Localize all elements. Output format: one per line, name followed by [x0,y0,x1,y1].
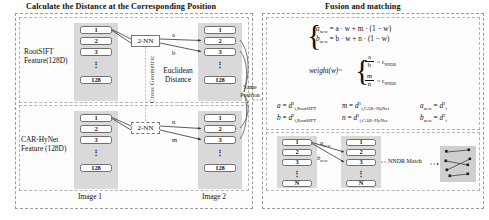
r1-img1-cell-128: 128 [80,76,112,84]
weight-frac1-rel-sub: NNDR [384,62,396,67]
same-position-label: Same Position [237,84,263,99]
definition-anew-lhs-sub: new [424,106,432,111]
definition-n: n = d1i,CAR−HyNet [342,113,387,122]
r2-img1-cell-1: 1 [80,114,112,122]
match-c1-cell-3: 3 [282,159,312,166]
match-c2-cell-N: N [346,180,376,187]
r2-img1-cell-3: 3 [80,136,112,144]
r2-img2-cell-128: 128 [204,164,236,172]
r2-img1-cell-2: 2 [80,125,112,133]
system1-line1: anew = a · w + m · (1 − w) [316,24,391,33]
arrow-label-a: a [172,31,175,39]
definition-bnew-sup: 2 [443,113,445,118]
cross-geometric-label: Cross Geometric [148,55,155,103]
system1-line2-rhs: = b · w + n · (1 − w) [329,34,389,43]
r1-img2-cell-3: 3 [204,48,236,56]
r1-img1-cell-1: 1 [80,26,112,34]
r1-img2-dots: ⋮ [204,61,236,69]
r1-img1-cell-2: 2 [80,37,112,45]
match-bnew-sub: new [320,158,327,163]
definition-anew-sup: 1 [443,101,445,106]
r1-img2-cell-1: 1 [204,26,236,34]
definition-m-lhs: m [342,101,347,110]
match-c1-dots: ⋮ [282,170,312,178]
r1-img2-cell-2: 2 [204,37,236,45]
r2-img2-cell-3: 3 [204,136,236,144]
definition-a-sub: i,RootSIFT [295,106,317,111]
match-c1-cell-2: 2 [282,149,312,156]
weight-label: weight(w)~ [309,66,342,75]
r2-img2-cell-1: 1 [204,114,236,122]
rootsift-label-line2: Feature(128D) [24,56,68,65]
definition-a: a = d1i,RootSIFT [277,101,316,110]
definition-anew-sub: i [446,106,447,111]
weight-frac2-relation: ~ rNNDR [377,77,396,84]
match-arrow-label-bnew: bnew [317,154,328,161]
definition-a-sup: 1 [292,101,294,106]
definition-b: b = d2i,RootSIFT [277,113,316,122]
diagram-root: Calculate the Distance at the Correspond… [0,0,489,220]
system1-line2: bnew = b · w + n · (1 − w) [316,34,389,43]
definition-bnew-eq: = [433,113,437,122]
definition-m-sub: i,CAR−HyNet [361,106,389,111]
left-panel-title: Calculate the Distance at the Correspond… [26,2,216,11]
definition-anew: anew = d1i [420,101,447,110]
definition-n-sub: i,CAR−HyNet [360,118,388,123]
two-nn-box-carhynet: 2-NN [131,122,160,134]
same-position-line1: Same [243,84,256,90]
nndr-match-label: NNDR Match [388,158,422,166]
carhynet-label-line2: Feature (128D) [21,144,66,153]
definition-anew-eq: = [433,101,437,110]
definition-a-lhs: a [277,101,281,110]
arrow-label-b: b [172,49,175,57]
definition-m-sup: 1 [359,101,361,106]
definition-b-lhs: b [277,113,281,122]
definition-b-eq: = [282,113,286,122]
match-c2-cell-3: 3 [346,159,376,166]
r2-img1-dots: ⋮ [80,149,112,157]
arrow-label-n: n [172,118,175,126]
carhynet-label-line1: CAR-HyNet [21,135,58,144]
match-c2-cell-1: 1 [346,139,376,146]
weight-frac2-rel-sub: NNDR [384,81,396,86]
weight-frac1-den: b [368,61,371,68]
weight-frac2-den: n [368,80,371,87]
system1-line2-lhs-sub: new [320,39,328,44]
definition-n-sup: 1 [357,113,359,118]
match-c1-cell-1: 1 [282,139,312,146]
match-c1-cell-N: N [282,180,312,187]
r1-img1-dots: ⋮ [80,61,112,69]
rootsift-feature-label: RootSIFT Feature(128D) [24,47,68,66]
image2-caption: Image 2 [202,192,226,201]
definition-n-eq: = [347,113,351,122]
system1-line1-rhs: = a · w + m · (1 − w) [329,24,391,33]
r1-img2-cell-128: 128 [204,76,236,84]
definition-b-sub: i,RootSIFT [295,118,317,123]
definition-bnew: bnew = d2i [420,113,447,122]
weight-frac2-num: m [367,72,372,79]
r1-img1-cell-3: 3 [80,48,112,56]
definition-a-eq: = [282,101,286,110]
match-c2-dots: ⋮ [346,170,376,178]
match-anew-sub: new [323,143,330,148]
r2-img2-cell-2: 2 [204,125,236,133]
weight-fraction-1: a b [365,54,374,69]
same-position-line2: Position [240,92,260,98]
rootsift-label-line1: RootSIFT [24,47,54,56]
weight-frac1-num: a [368,53,371,60]
definition-bnew-lhs-sub: new [424,118,432,123]
match-arrow-label-anew: anew [320,139,331,146]
euclidean-line2: Distance [165,75,191,84]
definition-b-sup: 2 [292,113,294,118]
definition-m-eq: = [349,101,353,110]
euclidean-line1: Euclidean [163,66,193,75]
weight-fraction-2: m n [365,73,374,88]
nndr-match-result-box [440,146,476,182]
arrow-label-m: m [172,136,177,144]
definition-bnew-sub: i [446,118,447,123]
right-panel-title: Fusion and matching [325,2,401,11]
definition-m: m = d1i,CAR−HyNet [342,101,389,110]
r2-img2-dots: ⋮ [204,149,236,157]
match-c2-cell-2: 2 [346,149,376,156]
euclidean-distance-label: Euclidean Distance [155,66,201,85]
